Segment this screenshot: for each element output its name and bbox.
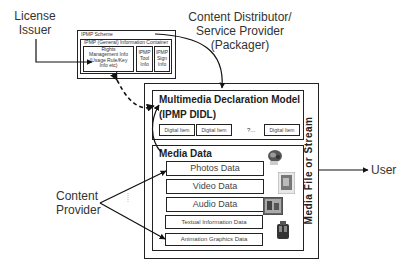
content-distributor-arrow	[155, 34, 222, 88]
media-data-to-mdm-arrow	[152, 105, 161, 152]
license-issuer-arrow	[36, 39, 92, 62]
ipmp-mdm-dashed-arrowhead	[146, 106, 154, 108]
connector-layer	[0, 0, 415, 268]
content-provider-to-animation-arrow	[100, 203, 165, 239]
content-provider-to-photos-arrow	[100, 171, 166, 203]
ipmp-mdm-dashed-link	[117, 80, 146, 108]
